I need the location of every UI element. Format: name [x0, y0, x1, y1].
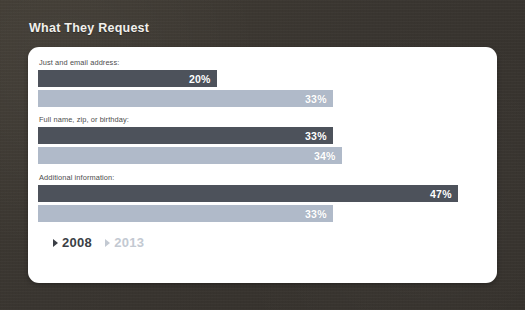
bar-group-label: Full name, zip, or birthday: [39, 115, 487, 124]
bar-value-label: 33% [305, 208, 333, 220]
grouped-bar-chart: Just and email address: 20% 33% Full nam… [38, 55, 487, 283]
bar-group-label: Just and email address: [39, 58, 487, 67]
bar-group: Full name, zip, or birthday: 33% 34% [38, 115, 487, 164]
chart-card: Just and email address: 20% 33% Full nam… [28, 47, 497, 283]
bar-value-label: 20% [189, 73, 217, 85]
bar-value-label: 33% [305, 130, 333, 142]
bar-2008[interactable]: 47% [38, 185, 458, 202]
bar-row: 20% [38, 70, 487, 87]
bar-row: 33% [38, 205, 487, 222]
bar-value-label: 34% [314, 150, 342, 162]
triangle-right-marker-icon [105, 239, 110, 247]
chart-legend: 2008 2013 [53, 235, 487, 250]
bar-2013[interactable]: 33% [38, 90, 333, 107]
bar-group: Additional information: 47% 33% [38, 173, 487, 222]
bar-value-label: 33% [305, 93, 333, 105]
bar-row: 34% [38, 147, 487, 164]
bar-group: Just and email address: 20% 33% [38, 58, 487, 107]
bar-2008[interactable]: 20% [38, 70, 217, 87]
bar-value-label: 47% [430, 188, 458, 200]
legend-item-2013[interactable]: 2013 [105, 235, 144, 250]
bar-row: 33% [38, 127, 487, 144]
bar-2013[interactable]: 33% [38, 205, 333, 222]
bar-group-label: Additional information: [39, 173, 487, 182]
bar-row: 47% [38, 185, 487, 202]
bar-row: 33% [38, 90, 487, 107]
bar-2013[interactable]: 34% [38, 147, 342, 164]
bar-2008[interactable]: 33% [38, 127, 333, 144]
legend-label: 2008 [62, 235, 92, 250]
triangle-right-marker-icon [53, 239, 58, 247]
legend-label: 2013 [114, 235, 144, 250]
legend-item-2008[interactable]: 2008 [53, 235, 92, 250]
page-title: What They Request [29, 21, 149, 35]
